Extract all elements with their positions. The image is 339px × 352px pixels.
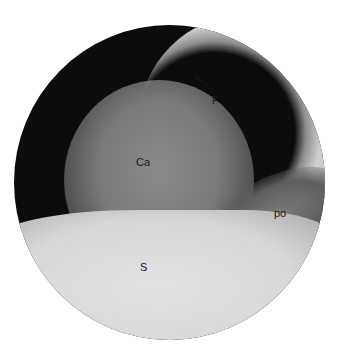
label-s: S	[140, 262, 147, 273]
endoscope-view	[14, 25, 325, 340]
label-po: po	[274, 208, 286, 219]
vignette	[14, 25, 325, 340]
arrow-icon	[191, 73, 217, 93]
label-f: F	[212, 95, 219, 106]
label-ca: Ca	[136, 157, 150, 168]
